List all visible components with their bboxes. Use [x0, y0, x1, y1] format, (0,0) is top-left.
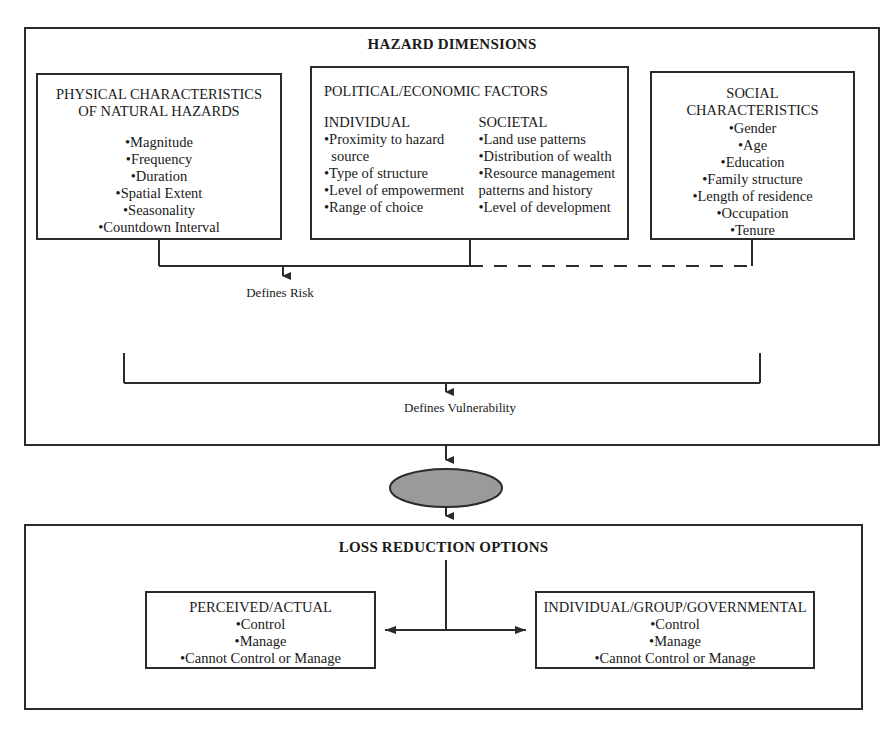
- social-characteristics-list: •Gender •Age •Education •Family structur…: [652, 120, 853, 239]
- societal-list: •Land use patterns •Distribution of weal…: [479, 131, 620, 216]
- political-economic-individual-column: INDIVIDUAL •Proximity to hazard source •…: [324, 113, 465, 216]
- perceived-actual-box: PERCEIVED/ACTUAL •Control •Manage •Canno…: [145, 591, 376, 669]
- social-characteristics-title-line-2: CHARACTERISTICS: [652, 102, 853, 119]
- physical-characteristics-box: PHYSICAL CHARACTERISTICS OF NATURAL HAZA…: [36, 73, 282, 240]
- list-item: •Proximity to hazard source: [324, 131, 465, 165]
- list-item: •Cannot Control or Manage: [147, 650, 374, 667]
- individual-subhead: INDIVIDUAL: [324, 113, 465, 131]
- list-item: •Gender: [652, 120, 853, 137]
- list-item: •Occupation: [652, 205, 853, 222]
- physical-characteristics-list: •Magnitude •Frequency •Duration •Spatial…: [38, 134, 280, 236]
- list-item: •Manage: [147, 633, 374, 650]
- list-item: •Resource management patterns and histor…: [479, 165, 620, 199]
- social-characteristics-title-line-1: SOCIAL: [652, 85, 853, 102]
- list-item: •Seasonality: [38, 202, 280, 219]
- social-characteristics-box: SOCIAL CHARACTERISTICS •Gender •Age •Edu…: [650, 71, 855, 240]
- list-item: •Type of structure: [324, 165, 465, 182]
- loss-reduction-options-heading: LOSS REDUCTION OPTIONS: [24, 539, 863, 556]
- defines-risk-label: Defines Risk: [200, 285, 360, 301]
- list-item: •Frequency: [38, 151, 280, 168]
- list-item: •Age: [652, 137, 853, 154]
- political-economic-societal-column: SOCIETAL •Land use patterns •Distributio…: [479, 113, 620, 216]
- diagram-canvas: HAZARD DIMENSIONS PHYSICAL CHARACTERISTI…: [0, 0, 891, 740]
- list-item: •Family structure: [652, 171, 853, 188]
- list-item: •Education: [652, 154, 853, 171]
- physical-characteristics-title-line-2: OF NATURAL HAZARDS: [38, 103, 280, 120]
- individual-list: •Proximity to hazard source •Type of str…: [324, 131, 465, 216]
- physical-characteristics-title-line-1: PHYSICAL CHARACTERISTICS: [38, 86, 280, 103]
- list-item: •Length of residence: [652, 188, 853, 205]
- perceived-actual-title: PERCEIVED/ACTUAL: [147, 593, 374, 616]
- hazard-dimensions-heading: HAZARD DIMENSIONS: [24, 36, 880, 53]
- individual-group-governmental-list: •Control •Manage •Cannot Control or Mana…: [537, 616, 813, 667]
- political-economic-factors-box: POLITICAL/ECONOMIC FACTORS INDIVIDUAL •P…: [310, 66, 629, 240]
- list-item: •Control: [537, 616, 813, 633]
- list-item: •Magnitude: [38, 134, 280, 151]
- social-characteristics-title: SOCIAL CHARACTERISTICS: [652, 73, 853, 119]
- list-item: •Distribution of wealth: [479, 148, 620, 165]
- list-item: •Countdown Interval: [38, 219, 280, 236]
- individual-group-governmental-box: INDIVIDUAL/GROUP/GOVERNMENTAL •Control •…: [535, 591, 815, 669]
- list-item: •Range of choice: [324, 199, 465, 216]
- individual-group-governmental-title: INDIVIDUAL/GROUP/GOVERNMENTAL: [537, 593, 813, 616]
- list-item: •Duration: [38, 168, 280, 185]
- list-item: •Manage: [537, 633, 813, 650]
- list-item: •Level of empowerment: [324, 182, 465, 199]
- physical-characteristics-title: PHYSICAL CHARACTERISTICS OF NATURAL HAZA…: [38, 75, 280, 120]
- political-economic-factors-title: POLITICAL/ECONOMIC FACTORS: [312, 68, 627, 100]
- list-item: •Control: [147, 616, 374, 633]
- perceived-actual-list: •Control •Manage •Cannot Control or Mana…: [147, 616, 374, 667]
- list-item: •Cannot Control or Manage: [537, 650, 813, 667]
- context-node-label: CONTEXT: [385, 478, 505, 494]
- list-item: •Spatial Extent: [38, 185, 280, 202]
- societal-subhead: SOCIETAL: [479, 113, 620, 131]
- list-item: •Land use patterns: [479, 131, 620, 148]
- defines-vulnerability-label: Defines Vulnerability: [370, 400, 550, 416]
- list-item: •Tenure: [652, 222, 853, 239]
- list-item: •Level of development: [479, 199, 620, 216]
